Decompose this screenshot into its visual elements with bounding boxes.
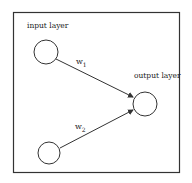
input-node-1 xyxy=(34,40,58,64)
neural-network-diagram: input layer output layer w1 w2 xyxy=(0,0,192,183)
output-node xyxy=(133,92,157,116)
weight-w2-label: w2 xyxy=(75,122,86,133)
input-layer-label: input layer xyxy=(27,21,69,30)
output-layer-label: output layer xyxy=(134,71,181,80)
edge-w1-arrow xyxy=(56,59,133,97)
edge-w2-arrow xyxy=(60,110,133,148)
diagram-frame xyxy=(14,13,180,173)
weight-w2-subscript: 2 xyxy=(82,126,86,133)
weight-w1-label: w1 xyxy=(76,57,87,68)
input-node-2 xyxy=(38,142,60,164)
weight-w1-subscript: 1 xyxy=(83,61,87,68)
